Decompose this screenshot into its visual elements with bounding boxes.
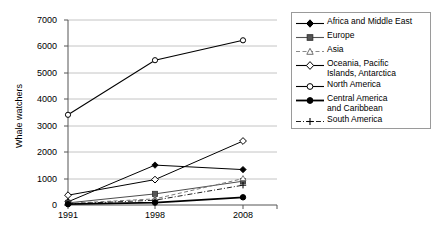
legend-label: Europe xyxy=(325,30,354,41)
legend-label: Africa and Middle East xyxy=(325,16,412,27)
legend-label-line2: and Caribbean xyxy=(327,103,383,113)
legend-item-europe: Europe xyxy=(295,30,428,43)
filled-diamond-marker-icon xyxy=(295,16,325,29)
legend-item-north-america: North America xyxy=(295,79,428,92)
legend-label: Central America and Caribbean xyxy=(325,93,387,113)
filled-circle-marker-icon xyxy=(295,93,325,106)
filled-square-marker-icon xyxy=(295,30,325,43)
legend-label: North America xyxy=(325,79,381,90)
plus-marker-icon xyxy=(295,114,325,127)
legend-label-line1: Oceania, Pacific xyxy=(327,58,388,68)
legend-item-central-america: Central America and Caribbean xyxy=(295,93,428,113)
series-markers-north-america xyxy=(65,38,245,118)
chart-screenshot: Whale watchers 7000 6000 5000 4000 3000 … xyxy=(0,0,435,237)
gridlines xyxy=(68,20,277,179)
x-axis-ticks xyxy=(68,205,277,209)
open-triangle-marker-icon xyxy=(295,44,325,57)
axis-lines xyxy=(68,20,277,205)
line-chart-figure: Whale watchers 7000 6000 5000 4000 3000 … xyxy=(0,0,290,237)
chart-legend: Africa and Middle East Europe Asia xyxy=(291,12,431,129)
legend-item-asia: Asia xyxy=(295,44,428,57)
legend-label-line2: Islands, Antarctica xyxy=(327,68,396,78)
legend-item-oceania: Oceania, Pacific Islands, Antarctica xyxy=(295,58,428,78)
legend-label: South America xyxy=(325,114,382,125)
series-line-north-america xyxy=(68,40,243,115)
open-circle-marker-icon xyxy=(295,79,325,92)
legend-item-south-america: South America xyxy=(295,114,428,127)
legend-label-line1: Central America xyxy=(327,93,387,103)
open-diamond-marker-icon xyxy=(295,58,325,71)
legend-label: Oceania, Pacific Islands, Antarctica xyxy=(325,58,396,78)
plot-canvas xyxy=(0,0,290,237)
legend-label: Asia xyxy=(325,44,344,55)
legend-item-africa-middle-east: Africa and Middle East xyxy=(295,16,428,29)
